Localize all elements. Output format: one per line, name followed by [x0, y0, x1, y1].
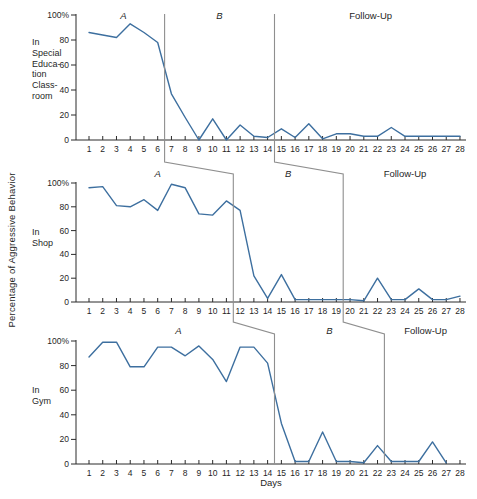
panel-label-gym: In Gym: [32, 385, 51, 407]
y-tick-label: 80: [60, 202, 70, 212]
x-tick-label: 1: [87, 306, 92, 316]
x-tick-label: 21: [359, 306, 369, 316]
x-tick-label: 21: [359, 468, 369, 478]
x-tick-label: 23: [387, 468, 397, 478]
x-tick-label: 28: [455, 306, 465, 316]
x-tick-label: 17: [304, 468, 314, 478]
y-tick-label: 0: [64, 297, 69, 307]
x-tick-label: 27: [442, 306, 452, 316]
y-tick-label: 20: [60, 273, 70, 283]
x-tick-label: 15: [277, 144, 287, 154]
y-tick-label: 0: [64, 135, 69, 145]
x-tick-label: 24: [400, 144, 410, 154]
x-tick-label: 20: [345, 144, 355, 154]
y-tick-label: 100%: [47, 178, 69, 188]
x-tick-label: 26: [428, 468, 438, 478]
x-tick-label: 6: [155, 144, 160, 154]
phase-label-a: A: [154, 168, 161, 179]
phase-label-b: B: [326, 325, 333, 336]
x-tick-label: 16: [290, 306, 300, 316]
y-tick-label: 20: [60, 434, 70, 444]
x-tick-label: 8: [183, 468, 188, 478]
x-tick-label: 1: [87, 468, 92, 478]
x-tick-label: 22: [373, 306, 383, 316]
x-tick-label: 17: [304, 306, 314, 316]
x-tick-label: 16: [290, 144, 300, 154]
x-tick-label: 25: [414, 468, 424, 478]
x-tick-label: 8: [183, 306, 188, 316]
x-tick-label: 18: [318, 468, 328, 478]
x-tick-label: 12: [235, 144, 245, 154]
phase-label-follow-up: Follow-Up: [404, 325, 447, 336]
x-tick-label: 4: [128, 468, 133, 478]
data-line-panel-2: [89, 184, 460, 301]
x-tick-label: 3: [114, 144, 119, 154]
x-tick-label: 18: [318, 144, 328, 154]
multiple-baseline-figure: 100%806040200123456789101112131415161718…: [0, 0, 477, 499]
x-tick-label: 19: [332, 306, 342, 316]
phase-label-follow-up: Follow-Up: [349, 10, 392, 21]
phase-change-line-1: [165, 14, 275, 464]
x-tick-label: 26: [428, 144, 438, 154]
y-tick-label: 20: [60, 110, 70, 120]
x-tick-label: 6: [155, 468, 160, 478]
x-tick-label: 24: [400, 306, 410, 316]
phase-label-follow-up: Follow-Up: [384, 168, 427, 179]
x-tick-label: 26: [428, 306, 438, 316]
x-tick-label: 23: [387, 306, 397, 316]
x-tick-label: 9: [197, 306, 202, 316]
y-tick-label: 100%: [47, 10, 69, 20]
x-tick-label: 21: [359, 144, 369, 154]
x-tick-label: 27: [442, 144, 452, 154]
x-tick-label: 7: [169, 144, 174, 154]
x-tick-label: 11: [222, 144, 231, 154]
x-tick-label: 20: [345, 306, 355, 316]
x-tick-label: 23: [387, 144, 397, 154]
phase-change-line-2: [275, 14, 385, 464]
x-tick-label: 7: [169, 468, 174, 478]
x-tick-label: 3: [114, 306, 119, 316]
x-tick-label: 10: [208, 468, 218, 478]
x-tick-label: 2: [100, 144, 105, 154]
y-tick-label: 100%: [47, 336, 69, 346]
x-tick-label: 4: [128, 306, 133, 316]
x-tick-label: 28: [455, 144, 465, 154]
x-tick-label: 24: [400, 468, 410, 478]
x-tick-label: 4: [128, 144, 133, 154]
x-tick-label: 15: [277, 306, 287, 316]
y-tick-label: 0: [64, 459, 69, 469]
panel-label-shop: In Shop: [32, 227, 53, 249]
x-tick-label: 28: [455, 468, 465, 478]
y-tick-label: 40: [60, 249, 70, 259]
x-tick-label: 13: [249, 468, 259, 478]
x-tick-label: 14: [263, 306, 273, 316]
x-tick-label: 5: [142, 468, 147, 478]
x-tick-label: 19: [332, 144, 342, 154]
x-tick-label: 5: [142, 144, 147, 154]
phase-label-b: B: [216, 10, 223, 21]
x-tick-label: 19: [332, 468, 342, 478]
x-tick-label: 22: [373, 144, 383, 154]
x-tick-label: 20: [345, 468, 355, 478]
x-axis-title: Days: [260, 477, 282, 488]
y-tick-label: 40: [60, 410, 70, 420]
x-tick-label: 3: [114, 468, 119, 478]
x-tick-label: 9: [197, 468, 202, 478]
x-tick-label: 13: [249, 306, 259, 316]
y-tick-label: 60: [60, 385, 70, 395]
x-tick-label: 2: [100, 468, 105, 478]
x-tick-label: 13: [249, 144, 259, 154]
x-tick-label: 16: [290, 468, 300, 478]
y-tick-label: 80: [60, 361, 70, 371]
phase-label-b: B: [285, 168, 292, 179]
y-axis-title: Percentage of Aggressive Behavior: [6, 173, 17, 328]
x-tick-label: 25: [414, 306, 424, 316]
x-tick-label: 17: [304, 144, 314, 154]
x-tick-label: 22: [373, 468, 383, 478]
x-tick-label: 14: [263, 144, 273, 154]
x-tick-label: 11: [222, 468, 231, 478]
x-tick-label: 27: [442, 468, 452, 478]
x-tick-label: 12: [235, 306, 245, 316]
x-tick-label: 6: [155, 306, 160, 316]
x-tick-label: 2: [100, 306, 105, 316]
